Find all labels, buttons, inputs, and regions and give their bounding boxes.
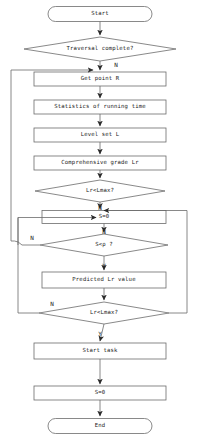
- node-predicted: [42, 272, 166, 288]
- node-end: [48, 419, 152, 434]
- node-szero1: [42, 211, 166, 224]
- flowchart-canvas: StartTraversal complete?Get point RStati…: [0, 0, 201, 445]
- node-start: [48, 7, 152, 22]
- node-getpoint: [34, 72, 166, 86]
- node-stats: [34, 100, 166, 114]
- node-szero2: [34, 386, 166, 400]
- node-srho: [40, 234, 168, 256]
- node-lrmax1: [35, 180, 165, 202]
- node-traversal: [24, 37, 176, 61]
- node-starttask: [34, 343, 166, 359]
- node-levelset: [34, 128, 166, 142]
- node-compgrade: [34, 156, 166, 170]
- flowchart-graphics: [0, 0, 201, 445]
- node-lrmax2: [39, 302, 169, 324]
